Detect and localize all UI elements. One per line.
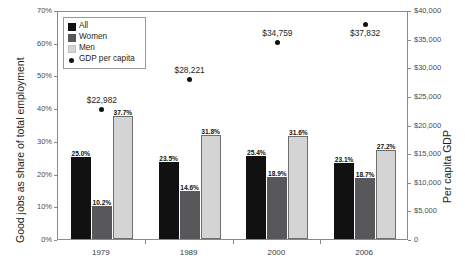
legend-item-label: Women [79,33,107,41]
gdp-dot-2006 [363,22,368,27]
y-tickmark-left [54,175,57,176]
legend-item-label: Men [79,44,95,52]
y-tickmark-left [54,240,57,241]
y-tick-right: $10,000 [414,179,441,187]
y-tickmark-left [54,142,57,143]
y-tick-right: $35,000 [414,36,441,44]
y-tick-left: 70% [28,7,52,15]
y-tickmark-left [54,11,57,12]
gdp-value-label: $34,759 [242,29,312,37]
bar-value-label: 27.2% [368,144,404,151]
y-tick-right: $40,000 [414,7,441,15]
y-tick-left: 0% [28,236,52,244]
y-tick-left: 40% [28,105,52,113]
gdp-dot-2000 [275,40,280,45]
x-category-label-2000: 2000 [246,248,306,257]
bar-men-2000 [288,136,308,239]
y-tick-right: $25,000 [414,93,441,101]
x-tickmark [145,240,146,244]
bar-men-1989 [201,135,221,239]
legend-item-all: All [68,21,141,32]
legend-swatch-icon [68,23,76,31]
y-tickmark-left [54,76,57,77]
bar-all-2000 [246,156,266,239]
gdp-dot-1989 [187,77,192,82]
y-tick-right: 0 [414,236,418,244]
x-category-label-2006: 2006 [334,248,394,257]
legend-item-label: All [79,22,88,30]
bar-value-label: 31.6% [280,130,316,137]
chart-legend: AllWomenMenGDP per capita [63,17,146,69]
bar-value-label: 31.8% [193,129,229,136]
gdp-value-label: $22,982 [67,96,137,104]
gdp-value-label: $37,832 [330,29,400,37]
x-tickmark [233,240,234,244]
legend-item-men: Men [68,43,141,54]
y-tickmark-right [408,68,411,69]
y-tickmark-right [408,11,411,12]
gdp-marker-icon [68,56,76,64]
y-axis-left-title: Good jobs as share of total employment [14,57,26,243]
y-tickmark-left [54,44,57,45]
y-tickmark-right [408,154,411,155]
chart-container: Good jobs as share of total employment P… [0,0,465,273]
y-tick-right: $30,000 [414,64,441,72]
bar-value-label: 25.4% [238,150,274,157]
y-tick-right: $20,000 [414,122,441,130]
y-tick-right: $5,000 [414,207,437,215]
y-tickmark-right [408,40,411,41]
y-tickmark-right [408,126,411,127]
legend-swatch-icon [68,45,76,53]
x-tickmark [320,240,321,244]
bar-value-label: 23.1% [326,157,362,164]
y-axis-right-title: Per capita GDP [441,130,453,203]
gdp-dot-1979 [99,107,104,112]
x-category-label-1979: 1979 [71,248,131,257]
gdp-value-label: $28,221 [155,66,225,74]
y-tick-left: 10% [28,203,52,211]
y-tick-left: 60% [28,40,52,48]
bar-women-2000 [267,177,287,239]
bar-women-2006 [355,178,375,239]
bar-men-1979 [113,116,133,239]
y-tickmark-left [54,207,57,208]
y-tick-left: 50% [28,72,52,80]
bar-women-1989 [180,191,200,239]
y-tick-right: $15,000 [414,150,441,158]
bar-value-label: 23.5% [151,156,187,163]
x-category-label-1989: 1989 [159,248,219,257]
y-tickmark-right [408,211,411,212]
bar-all-1989 [159,162,179,239]
y-tick-left: 30% [28,138,52,146]
bar-value-label: 25.0% [63,151,99,158]
y-tickmark-right [408,97,411,98]
legend-item-gdp-per-capita: GDP per capita [68,54,141,65]
legend-item-women: Women [68,32,141,43]
y-tickmark-left [54,109,57,110]
y-tick-left: 20% [28,171,52,179]
bar-all-1979 [71,157,91,239]
y-tickmark-right [408,183,411,184]
legend-item-label: GDP per capita [79,55,135,63]
y-tickmark-right [408,240,411,241]
bar-value-label: 37.7% [105,110,141,117]
bar-women-1979 [92,206,112,239]
bar-men-2006 [376,150,396,239]
legend-swatch-icon [68,34,76,42]
